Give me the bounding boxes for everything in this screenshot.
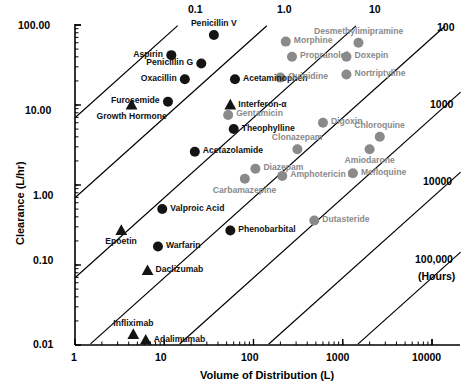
data-point-label: Epoetin — [105, 237, 137, 246]
data-point-marker — [365, 144, 375, 154]
y-axis-title: Clearance (L/hr) — [14, 161, 26, 245]
x-tick-label-10: 10 — [155, 352, 167, 363]
data-point-label: Amphotericin B — [290, 170, 354, 179]
data-point-label: Phenobarbital — [238, 225, 295, 234]
data-point-label: Doxepin — [354, 51, 388, 60]
data-point-label: Morphine — [294, 36, 333, 45]
data-point-marker — [209, 30, 219, 40]
data-point-marker — [180, 74, 190, 84]
clearance-vs-volume-scatter-chart: 100.00 10.00 1.00 0.10 0.01 1 10 100 100… — [0, 0, 475, 388]
data-point-marker — [196, 59, 206, 69]
x-tick-label-10000: 10000 — [412, 352, 441, 363]
data-point-label: Desmethylimipramine — [314, 27, 403, 36]
data-point-label: Valproic Acid — [170, 204, 224, 213]
data-point-label: Daclizumab — [156, 265, 204, 274]
data-point-label: Theophylline — [242, 124, 295, 133]
x-axis-title: Volume of Distribution (L) — [200, 370, 334, 381]
data-point-marker — [287, 52, 297, 62]
data-point-label: Penicillin V — [191, 19, 237, 28]
data-point-marker — [157, 204, 167, 214]
data-point-marker — [281, 37, 291, 47]
data-point-label: Adalimumab — [154, 335, 206, 344]
data-point-label: Growth Hormone — [97, 112, 167, 121]
contour-label-10: 10 — [369, 4, 381, 15]
contour-label-units: (Hours) — [418, 271, 455, 282]
data-point-marker — [309, 215, 319, 225]
contour-label-10000: 10000 — [423, 176, 452, 187]
data-point-label: Warfarin — [166, 241, 201, 250]
data-point-marker — [163, 97, 173, 107]
y-tick-label-10: 10.00 — [25, 105, 51, 116]
x-tick-label-1: 1 — [71, 352, 77, 363]
data-point-marker — [318, 118, 328, 128]
data-point-marker — [353, 38, 363, 48]
data-point-marker — [230, 74, 240, 84]
data-point-marker — [153, 242, 163, 252]
contour-label-0-1: 0.1 — [188, 4, 203, 15]
data-point-marker — [142, 264, 154, 275]
data-point-marker — [190, 147, 200, 157]
data-point-label: Chloroquine — [354, 121, 405, 130]
data-point-label: Interferon-α — [238, 100, 286, 109]
data-point-marker — [140, 334, 152, 345]
contour-label-100000: 100,000 — [415, 254, 453, 265]
contour-label-100: 100 — [437, 22, 455, 33]
data-point-label: Penicillin G — [146, 58, 193, 67]
data-point-label: Infliximab — [113, 319, 153, 328]
data-point-label: Propranolol — [300, 51, 348, 60]
data-point-label: Mefloquine — [361, 168, 406, 177]
data-point-label: Furosemide — [111, 96, 160, 105]
y-tick-label-100: 100.00 — [18, 20, 50, 31]
data-point-marker — [375, 132, 385, 142]
data-point-marker — [292, 144, 302, 154]
data-point-marker — [277, 171, 287, 181]
y-tick-label-0-01: 0.01 — [33, 339, 53, 350]
data-point-label: Acetazolamide — [203, 146, 263, 155]
contour-label-1000: 1000 — [430, 99, 453, 110]
y-tick-label-1: 1.00 — [33, 190, 53, 201]
y-tick-label-0-10: 0.10 — [33, 255, 53, 266]
x-tick-label-1000: 1000 — [326, 352, 349, 363]
data-point-label: Gentamicin — [236, 109, 283, 118]
data-point-label: Nortriptyline — [354, 69, 405, 78]
data-point-marker — [250, 164, 260, 174]
x-tick-label-100: 100 — [241, 352, 259, 363]
data-point-label: Carbamazepine — [213, 186, 277, 195]
data-point-label: Dutasteride — [322, 215, 369, 224]
data-point-label: Oxacillin — [141, 74, 177, 83]
data-point-label: Quinidine — [288, 72, 328, 81]
data-point-label: Amiodarone — [345, 156, 395, 165]
data-point-marker — [240, 174, 250, 184]
data-point-marker — [229, 124, 239, 134]
data-point-marker — [224, 99, 236, 110]
data-point-marker — [225, 225, 235, 235]
data-point-marker — [223, 110, 233, 120]
contour-label-1-0: 1.0 — [277, 4, 292, 15]
data-point-marker — [341, 70, 351, 80]
data-point-marker — [115, 224, 127, 235]
data-point-label: Clonazepam — [272, 133, 323, 142]
data-point-marker — [127, 328, 139, 339]
